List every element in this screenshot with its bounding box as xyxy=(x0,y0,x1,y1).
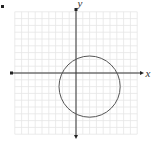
x-axis-left-arrow-icon xyxy=(10,72,13,75)
x-axis-right-arrow-icon xyxy=(140,71,144,75)
y-axis-label: y xyxy=(77,0,83,9)
y-axis: y xyxy=(74,0,83,139)
y-axis-bottom-arrow-icon xyxy=(74,135,78,139)
x-axis: x xyxy=(10,67,151,79)
coordinate-plane: x y xyxy=(0,0,152,145)
bullet-marker xyxy=(1,5,4,8)
x-axis-label: x xyxy=(145,67,151,79)
